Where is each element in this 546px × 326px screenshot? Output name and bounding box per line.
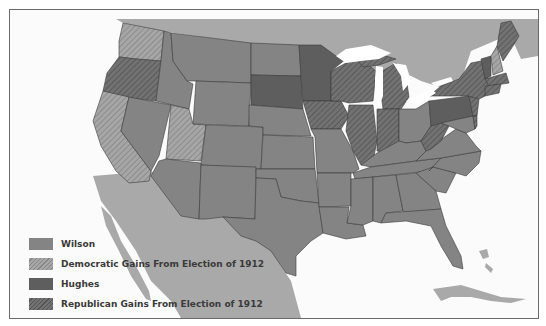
cuba-land (433, 285, 526, 303)
state-florida (381, 209, 463, 269)
legend-item-republican-gains: Republican Gains From Election of 1912 (29, 294, 264, 314)
state-arkansas (317, 173, 351, 207)
legend-swatch-wilson (29, 238, 53, 250)
state-mississippi (347, 177, 373, 225)
legend-item-wilson: Wilson (29, 234, 264, 254)
legend-item-democratic-gains: Democratic Gains From Election of 1912 (29, 254, 264, 274)
legend-label: Republican Gains From Election of 1912 (61, 299, 263, 309)
state-iowa (303, 101, 349, 129)
map-legend: Wilson Democratic Gains From Election of… (29, 234, 264, 314)
state-new-mexico (199, 165, 256, 219)
legend-label: Wilson (61, 239, 95, 249)
legend-swatch-democratic-gains (29, 258, 53, 270)
state-south-dakota (251, 75, 303, 109)
state-connecticut (485, 84, 501, 96)
legend-swatch-hughes (29, 278, 53, 290)
state-kansas (261, 135, 315, 169)
legend-label: Democratic Gains From Election of 1912 (61, 259, 264, 269)
legend-item-hughes: Hughes (29, 274, 264, 294)
state-wyoming (193, 81, 251, 126)
bahamas-islands (479, 249, 493, 273)
state-colorado (201, 125, 263, 169)
legend-label: Hughes (61, 279, 99, 289)
map-frame: Wilson Democratic Gains From Election of… (9, 9, 539, 319)
legend-swatch-republican-gains (29, 298, 53, 310)
state-north-dakota (251, 43, 301, 76)
